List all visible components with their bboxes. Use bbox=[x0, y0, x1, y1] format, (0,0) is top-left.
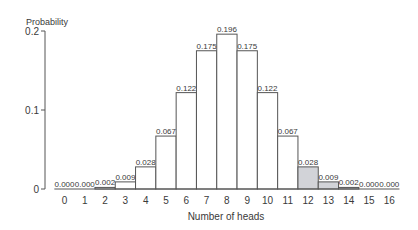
y-tick-label: 0 bbox=[33, 184, 39, 195]
x-tick-label: 10 bbox=[262, 195, 274, 206]
x-tick-label: 2 bbox=[102, 195, 108, 206]
y-tick-label: 0.2 bbox=[25, 26, 39, 37]
bar-13 bbox=[318, 182, 338, 189]
x-tick-label: 9 bbox=[244, 195, 250, 206]
x-tick-label: 13 bbox=[323, 195, 335, 206]
bar-7 bbox=[196, 51, 216, 189]
bar-value-label: 0.028 bbox=[136, 158, 157, 167]
y-axis: 00.10.2 bbox=[25, 26, 45, 195]
x-tick-label: 12 bbox=[303, 195, 315, 206]
bar-3 bbox=[115, 182, 135, 189]
bar-4 bbox=[136, 167, 156, 189]
bar-value-label: 0.122 bbox=[257, 84, 278, 93]
bar-value-label: 0.067 bbox=[156, 127, 177, 136]
bar-value-label: 0.002 bbox=[95, 178, 116, 187]
bar-8 bbox=[217, 34, 237, 189]
x-tick-label: 11 bbox=[283, 195, 294, 206]
bar-10 bbox=[257, 93, 277, 189]
bar-value-label: 0.009 bbox=[318, 173, 339, 182]
bar-11 bbox=[278, 136, 298, 189]
bar-12 bbox=[298, 167, 318, 189]
x-tick-label: 14 bbox=[343, 195, 355, 206]
bar-value-label: 0.000 bbox=[379, 180, 400, 189]
bar-value-label: 0.122 bbox=[176, 84, 197, 93]
bar-value-label: 0.196 bbox=[217, 25, 238, 34]
bar-value-label: 0.175 bbox=[237, 42, 258, 51]
bars: 0.0000.0000.0020.0090.0280.0670.1220.175… bbox=[54, 25, 399, 189]
x-axis-label: Number of heads bbox=[188, 211, 265, 222]
bar-6 bbox=[176, 93, 196, 189]
bar-value-label: 0.000 bbox=[75, 180, 96, 189]
bar-value-label: 0.028 bbox=[298, 158, 319, 167]
chart-canvas: Probability Number of heads 00.10.2 0.00… bbox=[0, 0, 418, 230]
bar-value-label: 0.067 bbox=[278, 127, 299, 136]
y-tick-label: 0.1 bbox=[25, 105, 39, 116]
x-tick-label: 1 bbox=[82, 195, 88, 206]
bar-9 bbox=[237, 51, 257, 189]
bar-value-label: 0.002 bbox=[339, 178, 360, 187]
x-tick-label: 4 bbox=[143, 195, 149, 206]
binomial-probability-chart: Probability Number of heads 00.10.2 0.00… bbox=[0, 0, 418, 230]
x-tick-label: 0 bbox=[62, 195, 68, 206]
bar-value-label: 0.175 bbox=[197, 42, 218, 51]
bar-value-label: 0.000 bbox=[54, 180, 75, 189]
x-axis: 012345678910111213141516 bbox=[54, 189, 399, 206]
x-tick-label: 15 bbox=[363, 195, 375, 206]
x-tick-label: 7 bbox=[204, 195, 210, 206]
x-tick-label: 6 bbox=[184, 195, 190, 206]
bar-value-label: 0.009 bbox=[115, 173, 136, 182]
bar-5 bbox=[156, 136, 176, 189]
x-tick-label: 8 bbox=[224, 195, 230, 206]
bar-value-label: 0.000 bbox=[359, 180, 380, 189]
x-tick-label: 5 bbox=[163, 195, 169, 206]
x-tick-label: 16 bbox=[384, 195, 396, 206]
x-tick-label: 3 bbox=[123, 195, 129, 206]
